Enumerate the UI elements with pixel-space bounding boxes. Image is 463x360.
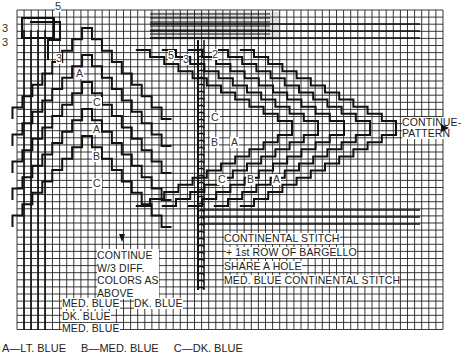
stitch-count-n3-left-b: 3 xyxy=(2,37,8,48)
stitch-count-n2-mid: 2 xyxy=(212,49,218,60)
continue-colors-label: CONTINUE W/3 DIFF. COLORS AS ABOVE xyxy=(97,249,159,299)
dk-blue-label-1: DK. BLUE xyxy=(134,298,183,309)
arrow-down-icon xyxy=(119,234,125,242)
zone-letter-a: A xyxy=(92,124,101,135)
zone-letter-b: B xyxy=(210,137,219,148)
stitch-count-n5-mid: 5 xyxy=(168,50,174,61)
arrow-right-icon xyxy=(441,124,449,132)
continue-colors-line3: COLORS AS xyxy=(97,274,159,287)
stitch-count-n3-left-a: 3 xyxy=(2,23,8,34)
continue-colors-line1: CONTINUE xyxy=(97,249,159,262)
zone-letter-a: A xyxy=(230,137,239,148)
zone-letter-a: A xyxy=(75,68,84,79)
med-blue-continental-label: MED. BLUE CONTINENTAL STITCH xyxy=(224,275,400,286)
zone-letter-b: B xyxy=(246,174,255,185)
zone-letter-c: C xyxy=(210,112,220,123)
continue-pattern-label: CONTINUE- PATTERN xyxy=(402,117,461,139)
zone-letter-c: C xyxy=(217,174,227,185)
color-legend: A—LT. BLUE B—MED. BLUE C—DK. BLUE xyxy=(2,342,255,354)
share-hole-label: SHARE A HOLE xyxy=(224,261,302,272)
med-blue-label-2: MED. BLUE xyxy=(62,323,120,334)
continue-pattern-line2: PATTERN xyxy=(402,128,461,139)
med-blue-label-1: MED. BLUE xyxy=(62,298,120,309)
zone-letter-a: A xyxy=(272,174,281,185)
zone-letter-c: C xyxy=(92,178,102,189)
stitch-count-n3-mid: 3 xyxy=(183,54,189,65)
first-row-label: + 1st ROW OF BARGELLO xyxy=(226,247,357,258)
continental-stitch-label: CONTINENTAL STITCH xyxy=(224,233,340,244)
stitch-chart: 5333532 ACABCCBACBA CONTINUE- PATTERN CO… xyxy=(0,0,463,360)
dk-blue-label-2: DK. BLUE xyxy=(62,311,111,322)
stitch-count-n5-top: 5 xyxy=(55,1,61,12)
legend-b-med-blue: B—MED. BLUE xyxy=(81,342,159,354)
zone-letter-c: C xyxy=(92,97,102,108)
zone-letter-b: B xyxy=(92,151,101,162)
legend-a-lt-blue: A—LT. BLUE xyxy=(2,342,66,354)
legend-c-dk-blue: C—DK. BLUE xyxy=(174,342,243,354)
stitch-count-n3-under: 3 xyxy=(56,53,62,64)
continue-colors-line2: W/3 DIFF. xyxy=(97,262,159,275)
